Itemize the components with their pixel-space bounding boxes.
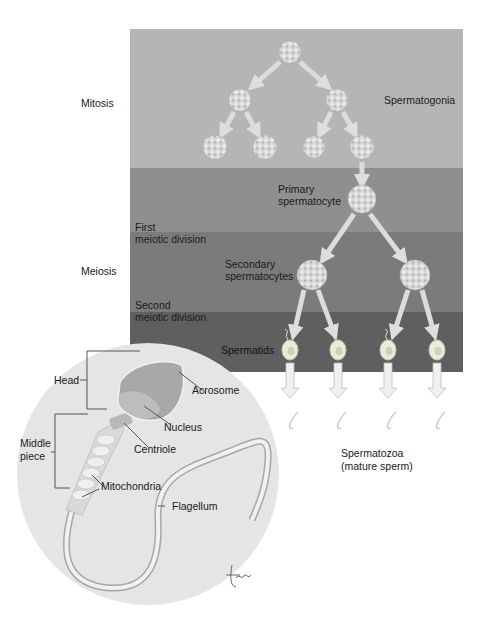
label-flagellum: Flagellum [172,500,218,512]
spermatogonia-cells [203,41,374,159]
secondary-spermatocyte-cell [400,260,430,290]
spermatid-cells [282,329,445,360]
label-first-meiotic-line2: meiotic division [135,233,206,245]
label-second-meiotic-line2: meiotic division [135,311,206,323]
label-nucleus: Nucleus [164,421,202,433]
spermatogenesis-illustration [0,0,486,617]
label-head: Head [54,374,79,386]
label-first-meiotic-line1: First [135,221,155,233]
label-spermatozoa-line2: (mature sperm) [341,460,413,472]
label-spermatozoa-line1: Spermatozoa [341,447,403,459]
label-primary-line1: Primary [278,183,314,195]
label-acrosome: Acrosome [192,384,239,396]
label-spermatogonia: Spermatogonia [384,94,455,106]
label-centriole: Centriole [134,443,176,455]
label-mitosis: Mitosis [81,97,114,109]
secondary-spermatocyte-cell [297,260,327,290]
spermatozoa-icons [289,412,445,429]
label-meiosis: Meiosis [81,265,117,277]
label-secondary-line1: Secondary [225,258,275,270]
maturation-arrows [281,363,446,398]
label-middle-line2: piece [20,450,45,462]
label-mitochondria: Mitochondria [101,480,161,492]
label-spermatids: Spermatids [221,344,274,356]
primary-spermatocyte-cell [348,185,376,213]
label-primary-line2: spermatocyte [278,195,341,207]
label-secondary-line2: spermatocytes [225,270,293,282]
label-second-meiotic-line1: Second [135,299,171,311]
label-middle-line1: Middle [20,437,51,449]
